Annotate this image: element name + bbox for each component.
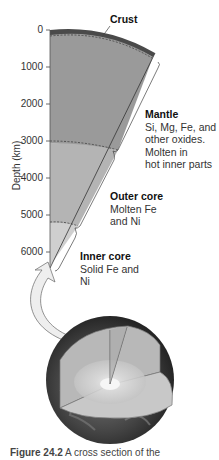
figure-caption: Figure 24.2 A cross section of the	[10, 447, 160, 458]
tick-label: 2000	[13, 98, 43, 109]
mantle-desc-line: hot inner parts	[145, 158, 216, 171]
globe-cutaway	[46, 316, 174, 444]
outer-core-region	[50, 143, 118, 226]
outer-core-desc-line: Molten Fe	[110, 203, 163, 216]
inner-core-desc-line: Solid Fe and	[80, 263, 139, 276]
depth-axis-label: Depth (km)	[11, 141, 22, 190]
mantle-desc-line: other oxides.	[145, 133, 216, 146]
crust-label: Crust	[110, 13, 137, 26]
inner-core-desc-line: Ni	[80, 275, 139, 288]
earth-layers-figure: 0 1000 2000 3000 4000 5000 6000 Depth (k…	[0, 0, 219, 460]
caption-text: A cross section of the	[63, 447, 160, 458]
inner-core-label: Inner core Solid Fe and Ni	[80, 250, 139, 288]
tick-label: 0	[13, 24, 43, 35]
axis-ticks	[46, 30, 50, 252]
crust-title: Crust	[110, 13, 137, 26]
caption-number: Figure 24.2	[10, 447, 63, 458]
mantle-label: Mantle Si, Mg, Fe, and other oxides. Mol…	[145, 108, 216, 171]
tick-label: 6000	[13, 246, 43, 257]
outer-core-desc-line: and Ni	[110, 215, 163, 228]
inner-core-title: Inner core	[80, 250, 139, 263]
mantle-desc-line: Molten in	[145, 146, 216, 159]
mantle-title: Mantle	[145, 108, 216, 121]
outer-core-label: Outer core Molten Fe and Ni	[110, 190, 163, 228]
tick-label: 1000	[13, 61, 43, 72]
tick-label: 5000	[13, 209, 43, 220]
mantle-desc-line: Si, Mg, Fe, and	[145, 121, 216, 134]
mantle-region	[50, 32, 153, 150]
outer-core-title: Outer core	[110, 190, 163, 203]
